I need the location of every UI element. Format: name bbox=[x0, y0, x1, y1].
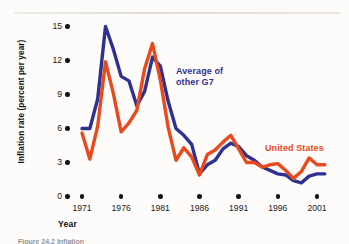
series-label-g7: Average of other G7 bbox=[176, 66, 223, 87]
series-label-g7-line2: other G7 bbox=[176, 77, 223, 88]
x-axis-title: Year bbox=[58, 219, 77, 229]
series-label-united-states: United States bbox=[265, 143, 324, 154]
series-label-g7-line1: Average of bbox=[176, 66, 223, 77]
inflation-line-chart-figure: Inflation rate (percent per year) 151296… bbox=[0, 0, 349, 244]
figure-caption-fragment: Figure 24.2 Inflation bbox=[18, 238, 84, 244]
series-line-average-of-other-g7 bbox=[82, 27, 325, 183]
plot-area bbox=[0, 0, 349, 244]
